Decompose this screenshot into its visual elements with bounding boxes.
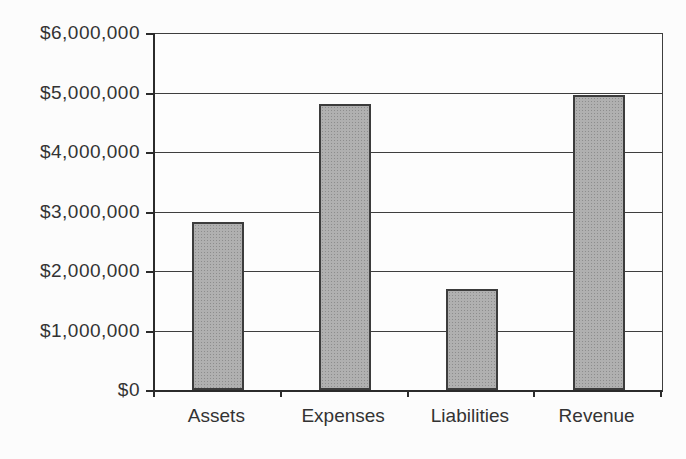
x-axis-category-label: Assets	[146, 403, 286, 429]
bar-assets	[192, 222, 244, 390]
y-axis-tick	[146, 331, 154, 333]
y-axis-tick-label: $2,000,000	[0, 260, 140, 282]
y-axis-tick	[146, 212, 154, 214]
x-axis-category-label: Expenses	[273, 403, 413, 429]
x-axis-tick	[660, 390, 662, 397]
bar-revenue	[573, 95, 625, 390]
y-axis-tick	[146, 152, 154, 154]
bar-chart: $0$1,000,000$2,000,000$3,000,000$4,000,0…	[0, 0, 686, 459]
y-axis-tick-label: $4,000,000	[0, 141, 140, 163]
y-axis-tick-label: $3,000,000	[0, 201, 140, 223]
gridline	[155, 93, 662, 94]
bar-expenses	[319, 104, 371, 390]
y-axis-tick	[146, 33, 154, 35]
x-axis-tick	[407, 390, 409, 397]
x-axis-category-label: Revenue	[527, 403, 667, 429]
y-axis-tick-label: $0	[0, 379, 140, 401]
y-axis-tick	[146, 93, 154, 95]
y-axis-tick-label: $6,000,000	[0, 22, 140, 44]
x-axis-tick	[153, 390, 155, 397]
plot-area	[153, 33, 663, 392]
y-axis-tick-label: $5,000,000	[0, 82, 140, 104]
y-axis-tick-label: $1,000,000	[0, 320, 140, 342]
y-axis-tick	[146, 271, 154, 273]
bar-liabilities	[446, 289, 498, 390]
x-axis-tick	[533, 390, 535, 397]
x-axis-tick	[280, 390, 282, 397]
gridline	[155, 33, 662, 34]
x-axis-category-label: Liabilities	[400, 403, 540, 429]
